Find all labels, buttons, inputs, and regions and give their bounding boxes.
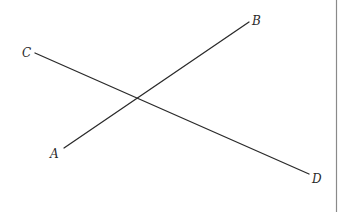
point-label-b: B xyxy=(251,14,261,28)
segment-ab xyxy=(64,22,249,148)
line-intersection-diagram: A B C D xyxy=(0,0,343,212)
point-label-c: C xyxy=(22,46,31,60)
point-label-d: D xyxy=(311,172,322,186)
segment-cd xyxy=(35,53,309,174)
point-label-a: A xyxy=(49,147,59,161)
